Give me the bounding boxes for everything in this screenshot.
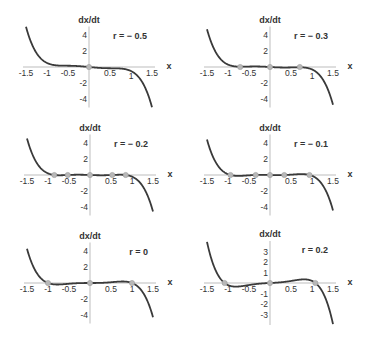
- x-tick-label: 1.5: [146, 68, 158, 78]
- x-tick-label: 1.5: [147, 176, 159, 186]
- y-tick-label: -4: [260, 94, 268, 104]
- y-axis-label: dx/dt: [259, 229, 281, 239]
- x-tick-label: -1.5: [200, 284, 215, 294]
- x-tick-label: 0.5: [285, 68, 297, 78]
- fixed-point-marker: [123, 172, 128, 177]
- fixed-point-marker: [253, 172, 258, 177]
- y-axis-label: dx/dt: [259, 15, 281, 25]
- y-tick-label: -2: [260, 78, 268, 88]
- x-tick-label: -1.5: [200, 176, 215, 186]
- x-tick-label: 0.5: [104, 68, 116, 78]
- x-tick-label: -1.5: [200, 68, 215, 78]
- fixed-point-marker: [52, 172, 57, 177]
- x-tick-label: 0.5: [105, 284, 117, 294]
- x-tick-label: -1.5: [19, 68, 34, 78]
- x-axis-label: x: [166, 61, 171, 71]
- fixed-point-marker: [45, 280, 50, 285]
- fixed-point-marker: [110, 172, 115, 177]
- y-tick-label: 4: [263, 138, 268, 148]
- x-axis-label: x: [167, 277, 172, 287]
- y-tick-label: 4: [82, 30, 87, 40]
- x-tick-label: 1.5: [147, 284, 159, 294]
- x-tick-label: -1: [43, 68, 51, 78]
- panel-title: r = − 0.1: [294, 139, 328, 149]
- x-tick-label: 0.5: [285, 284, 297, 294]
- y-tick-label: 1: [263, 268, 268, 278]
- panel-title: r = − 0.5: [113, 31, 147, 41]
- y-tick-label: -2: [79, 78, 87, 88]
- fixed-point-marker: [267, 172, 272, 177]
- y-tick-label: 4: [83, 246, 88, 256]
- y-tick-label: 2: [83, 262, 88, 272]
- y-axis-label: dx/dt: [79, 231, 101, 241]
- x-axis-label: x: [347, 169, 352, 179]
- y-tick-label: 4: [83, 138, 88, 148]
- panel-title: r = 0.2: [302, 245, 328, 255]
- x-tick-label: 1.5: [327, 284, 339, 294]
- x-tick-label: -1.5: [20, 176, 35, 186]
- fixed-point-marker: [87, 172, 92, 177]
- fixed-point-marker: [86, 64, 91, 69]
- fixed-point-marker: [282, 172, 287, 177]
- x-tick-label: 1: [310, 71, 315, 81]
- x-axis-label: x: [347, 61, 352, 71]
- fixed-point-marker: [222, 280, 227, 285]
- fixed-point-marker: [297, 64, 302, 69]
- bifurcation-panels: dx/dtxr = − 0.5-1.5-1-0.50.511.542-2-4dx…: [0, 0, 367, 341]
- y-tick-label: -2: [260, 299, 268, 309]
- y-tick-label: -2: [80, 294, 88, 304]
- y-tick-label: -2: [80, 186, 88, 196]
- x-tick-label: -0.5: [242, 68, 257, 78]
- y-tick-label: 2: [263, 46, 268, 56]
- fixed-point-marker: [228, 172, 233, 177]
- panel-title: r = 0: [129, 247, 148, 257]
- y-tick-label: -3: [260, 310, 268, 320]
- y-tick-label: -4: [79, 94, 87, 104]
- y-tick-label: 3: [263, 247, 268, 257]
- x-tick-label: -1: [224, 68, 232, 78]
- fixed-point-marker: [65, 172, 70, 177]
- y-tick-label: 2: [82, 46, 87, 56]
- fixed-point-marker: [87, 280, 92, 285]
- x-tick-label: -0.5: [61, 68, 76, 78]
- x-tick-label: -0.5: [62, 284, 77, 294]
- panel-title: r = − 0.3: [294, 31, 328, 41]
- y-tick-label: 2: [263, 154, 268, 164]
- fixed-point-marker: [267, 64, 272, 69]
- y-tick-label: -2: [260, 186, 268, 196]
- fixed-point-marker: [307, 172, 312, 177]
- x-axis-label: x: [167, 169, 172, 179]
- x-tick-label: -1: [44, 176, 52, 186]
- y-tick-label: 4: [263, 30, 268, 40]
- y-tick-label: 2: [263, 257, 268, 267]
- y-tick-label: -4: [260, 202, 268, 212]
- y-tick-label: -1: [260, 289, 268, 299]
- y-axis-label: dx/dt: [79, 123, 101, 133]
- y-axis-label: dx/dt: [259, 123, 281, 133]
- x-tick-label: 1.5: [327, 68, 339, 78]
- panel-title: r = − 0.2: [114, 139, 148, 149]
- x-axis-label: x: [347, 277, 352, 287]
- y-tick-label: 2: [83, 154, 88, 164]
- fixed-point-marker: [238, 64, 243, 69]
- x-tick-label: 1: [310, 284, 315, 294]
- x-tick-label: 0.5: [285, 176, 297, 186]
- fixed-point-marker: [313, 280, 318, 285]
- y-axis-label: dx/dt: [78, 15, 100, 25]
- x-tick-label: 1.5: [327, 176, 339, 186]
- fixed-point-marker: [129, 280, 134, 285]
- x-tick-label: -1.5: [20, 284, 35, 294]
- y-tick-label: -4: [80, 310, 88, 320]
- fixed-point-marker: [267, 280, 272, 285]
- y-tick-label: -4: [80, 202, 88, 212]
